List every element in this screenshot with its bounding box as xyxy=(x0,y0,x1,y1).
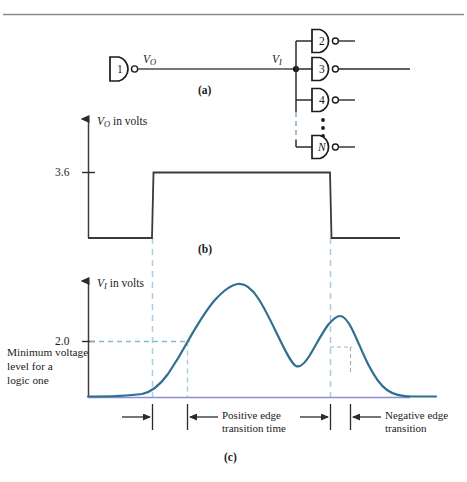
note-line-2: level for a xyxy=(7,360,88,374)
gate-1-label: 1 xyxy=(117,62,123,76)
gate-1-inverter xyxy=(110,57,138,81)
panel-c-waveform xyxy=(88,284,436,397)
caption-a: (a) xyxy=(198,83,211,97)
panel-c-axis-label: VI in volts xyxy=(97,276,144,290)
caption-b: (b) xyxy=(198,242,212,256)
panel-b-axis-label: VO in volts xyxy=(97,114,147,128)
gate-4-label: 4 xyxy=(319,93,325,107)
positive-edge-line-2: transition time xyxy=(222,422,286,435)
panel-c-plot xyxy=(82,281,436,430)
gate-2-label: 2 xyxy=(319,34,325,48)
note-line-3: logic one xyxy=(7,374,88,388)
gate-3-nand xyxy=(312,58,410,81)
positive-edge-line-1: Positive edge xyxy=(222,409,286,422)
caption-c: (c) xyxy=(224,450,237,464)
label-vi-node: VI xyxy=(272,52,282,66)
label-vo-node: VO xyxy=(143,52,156,66)
panel-b-waveform xyxy=(88,173,400,239)
circuit-diagram xyxy=(110,30,410,159)
vertical-dots-icon xyxy=(321,118,325,138)
panel-b-plot xyxy=(82,119,400,238)
gate-n-label: N xyxy=(318,140,326,154)
annotation-positive-edge: Positive edge transition time xyxy=(222,409,286,436)
note-line-1: Minimum voltage xyxy=(7,346,88,360)
negative-edge-line-2: transition xyxy=(385,422,448,435)
minimum-voltage-note: Minimum voltage level for a logic one xyxy=(7,346,88,387)
negative-edge-line-1: Negative edge xyxy=(385,409,448,422)
annotation-negative-edge: Negative edge transition xyxy=(385,409,448,436)
gate-3-label: 3 xyxy=(319,62,325,76)
panel-b-tick-label: 3.6 xyxy=(55,165,69,179)
figure-container: VO VI 1 2 3 4 N (a) VO in volts 3.6 (b) … xyxy=(0,0,467,482)
